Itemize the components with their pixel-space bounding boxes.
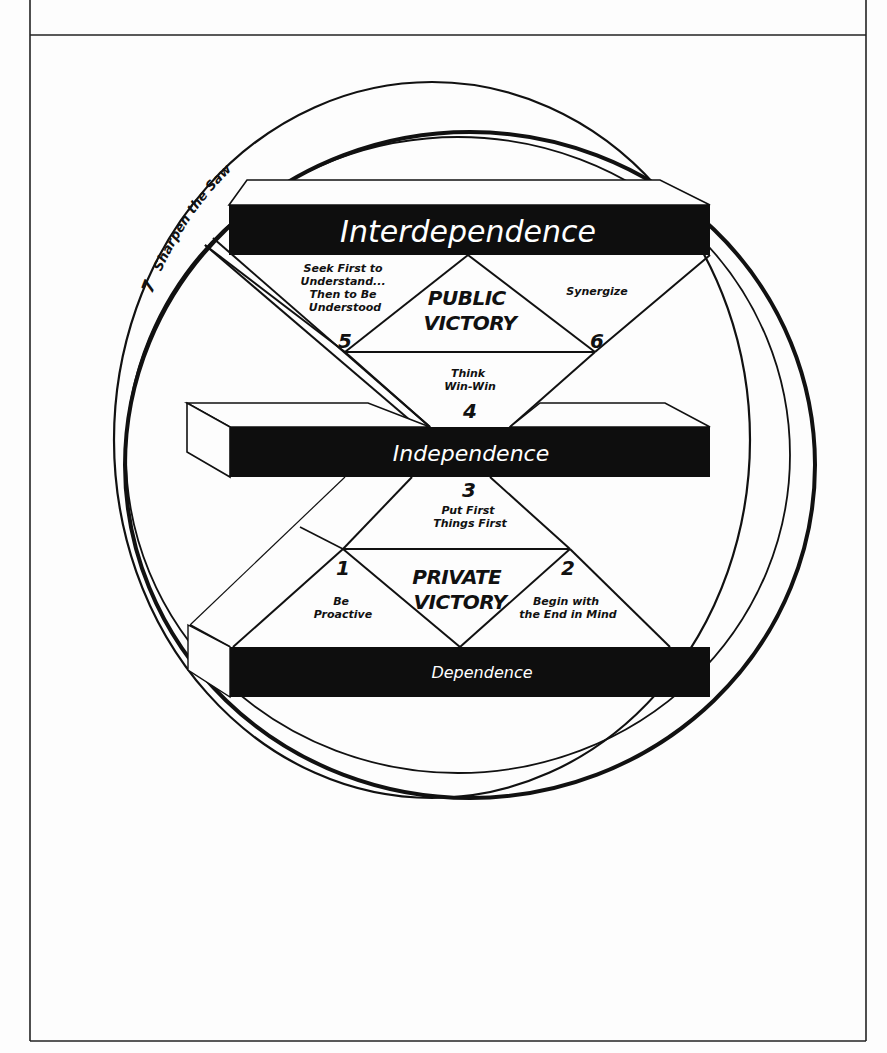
svg-text:Think Win-Win: Think Win-Win	[444, 367, 496, 393]
svg-text:1: 1	[336, 556, 350, 580]
habit-6: Synergize 6	[566, 285, 628, 353]
private-victory-lines	[190, 477, 670, 650]
svg-text:Begin with the End in Mi: Begin with the End in Mind	[519, 595, 616, 621]
habit-2: 2 Begin with the End in Mind	[519, 556, 616, 621]
svg-text:Synergize: Synergize	[566, 285, 628, 298]
interdependence-label: Interdependence	[340, 214, 596, 249]
private-victory-label: PRIVATE VICTORY	[412, 565, 509, 614]
svg-text:4: 4	[462, 399, 477, 423]
habit-3: 3 Put First Things First	[433, 478, 507, 530]
svg-text:Seek First to Understand: Seek First to Understand... Then to Be U…	[301, 262, 390, 314]
svg-text:2: 2	[561, 556, 575, 580]
dependence-slab-side	[188, 625, 230, 697]
svg-text:6: 6	[590, 329, 604, 353]
diagram-frame: 7 Sharpen the Saw Interdependence Indepe…	[0, 0, 887, 1053]
svg-text:Put First Things First: Put First Things First	[433, 504, 507, 530]
habit-4: Think Win-Win 4	[444, 367, 496, 423]
svg-text:Be Proactive: Be Proactive	[314, 595, 373, 621]
public-victory-label: PUBLIC VICTORY	[424, 286, 520, 335]
interdependence-slab	[229, 180, 710, 205]
dependence-label: Dependence	[431, 663, 532, 682]
independence-label: Independence	[393, 441, 549, 466]
svg-text:5: 5	[338, 329, 352, 353]
svg-text:3: 3	[462, 478, 476, 502]
maturity-continuum-diagram: 7 Sharpen the Saw Interdependence Indepe…	[0, 0, 887, 1053]
